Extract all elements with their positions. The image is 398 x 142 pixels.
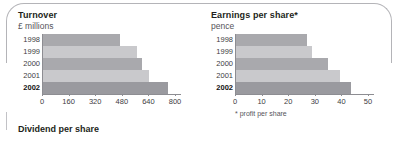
- bar-1999: [235, 46, 312, 58]
- x-axis-tick: [42, 94, 43, 96]
- x-axis-tick: [315, 94, 316, 96]
- dividend-per-share-heading: Dividend per share: [18, 124, 99, 134]
- table-row: 2000: [211, 58, 383, 70]
- category-label: 2000: [211, 58, 233, 70]
- category-label: 1999: [18, 46, 40, 58]
- bar-1999: [42, 46, 137, 58]
- category-label: 2002: [211, 82, 233, 94]
- bar-2002: [42, 82, 168, 94]
- bar-2000: [42, 58, 142, 70]
- category-label: 1999: [211, 46, 233, 58]
- bar-2001: [42, 70, 149, 82]
- table-row: 2001: [18, 70, 190, 82]
- category-label: 2000: [18, 58, 40, 70]
- x-axis-tick: [175, 94, 176, 96]
- x-axis-tick: [235, 94, 236, 96]
- x-axis-tick: [148, 94, 149, 96]
- x-axis-line: [235, 94, 374, 95]
- bar-2001: [235, 70, 340, 82]
- x-axis-tick: [95, 94, 96, 96]
- category-label: 1998: [211, 34, 233, 46]
- table-row: 1999: [18, 46, 190, 58]
- x-axis-tick: [341, 94, 342, 96]
- chart-eps-plot: 19981999200020012002 01020304050: [211, 34, 383, 107]
- chart-panel: Turnover £ millions 19981999200020012002…: [0, 0, 398, 142]
- x-axis-tick: [368, 94, 369, 96]
- category-label: 1998: [18, 34, 40, 46]
- x-axis-tick: [69, 94, 70, 96]
- bar-2000: [235, 58, 328, 70]
- x-axis-tick: [262, 94, 263, 96]
- table-row: 1998: [211, 34, 383, 46]
- panel-frame-left-stub: [6, 112, 7, 130]
- chart-eps-rows: 19981999200020012002: [211, 34, 383, 94]
- x-axis-tick-label: 160: [62, 97, 75, 107]
- bar-2002: [235, 82, 351, 94]
- table-row: 1999: [211, 46, 383, 58]
- category-label: 2001: [211, 70, 233, 82]
- x-axis-tick: [288, 94, 289, 96]
- table-row: 2002: [18, 82, 190, 94]
- chart-turnover: Turnover £ millions 19981999200020012002…: [18, 10, 190, 107]
- bar-1998: [42, 34, 120, 46]
- chart-eps-subtitle: pence: [211, 21, 383, 32]
- chart-turnover-plot: 19981999200020012002 0160320480640800: [18, 34, 190, 107]
- chart-turnover-subtitle: £ millions: [18, 21, 190, 32]
- chart-earnings-per-share: Earnings per share* pence 19981999200020…: [211, 10, 383, 107]
- x-axis-tick: [122, 94, 123, 96]
- x-axis-line: [42, 94, 181, 95]
- x-axis-tick-label: 800: [169, 97, 182, 107]
- table-row: 2002: [211, 82, 383, 94]
- x-axis-tick-label: 480: [116, 97, 129, 107]
- category-label: 2002: [18, 82, 40, 94]
- x-axis-tick-label: 320: [89, 97, 102, 107]
- bar-1998: [235, 34, 307, 46]
- table-row: 2001: [211, 70, 383, 82]
- chart-turnover-title: Turnover: [18, 10, 190, 21]
- chart-turnover-tick-labels: 0160320480640800: [18, 97, 190, 107]
- table-row: 2000: [18, 58, 190, 70]
- value-axis-origin-line: [42, 34, 43, 94]
- x-axis-tick-label: 0: [233, 97, 237, 107]
- chart-eps-title: Earnings per share*: [211, 10, 383, 21]
- chart-eps-footnote: * profit per share: [235, 110, 287, 117]
- x-axis-tick-label: 30: [311, 97, 319, 107]
- table-row: 1998: [18, 34, 190, 46]
- value-axis-origin-line: [235, 34, 236, 94]
- x-axis-tick-label: 10: [257, 97, 265, 107]
- chart-eps-tick-labels: 01020304050: [211, 97, 383, 107]
- chart-turnover-rows: 19981999200020012002: [18, 34, 190, 94]
- category-label: 2001: [18, 70, 40, 82]
- x-axis-tick-label: 40: [337, 97, 345, 107]
- x-axis-tick-label: 640: [142, 97, 155, 107]
- x-axis-tick-label: 50: [364, 97, 372, 107]
- x-axis-tick-label: 0: [40, 97, 44, 107]
- x-axis-tick-label: 20: [284, 97, 292, 107]
